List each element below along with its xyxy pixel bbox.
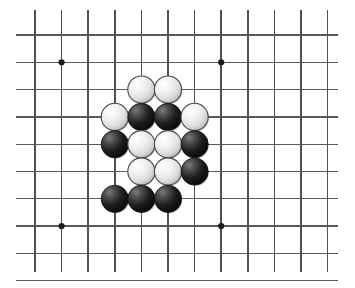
stone-body-white[interactable] — [181, 103, 208, 130]
stones-group[interactable] — [101, 76, 209, 213]
stone-white-w-d4[interactable] — [101, 103, 129, 131]
stone-body-black[interactable] — [154, 103, 181, 130]
stone-body-black[interactable] — [101, 185, 128, 212]
stone-white-w-e6[interactable] — [128, 158, 156, 186]
star-point-3 — [218, 223, 224, 229]
stone-body-black[interactable] — [128, 103, 155, 130]
stone-white-w-e3[interactable] — [128, 76, 156, 104]
star-point-0 — [59, 59, 65, 65]
stone-black-b-e7[interactable] — [128, 185, 156, 213]
stone-black-b-d5[interactable] — [101, 131, 129, 159]
stone-body-white[interactable] — [128, 131, 155, 158]
stone-black-b-e4[interactable] — [128, 103, 156, 131]
stone-body-white[interactable] — [128, 158, 155, 185]
stone-black-b-d7[interactable] — [101, 185, 129, 213]
go-board-canvas[interactable] — [0, 0, 355, 288]
stone-body-white[interactable] — [154, 158, 181, 185]
stone-body-black[interactable] — [181, 158, 208, 185]
stone-body-black[interactable] — [154, 185, 181, 212]
stone-body-black[interactable] — [181, 131, 208, 158]
stone-white-w-g4[interactable] — [181, 103, 209, 131]
stone-white-w-e5[interactable] — [128, 131, 156, 159]
star-point-1 — [218, 59, 224, 65]
stone-body-black[interactable] — [101, 131, 128, 158]
stone-black-b-f7[interactable] — [154, 185, 182, 213]
stone-body-white[interactable] — [101, 103, 128, 130]
stone-black-b-g5[interactable] — [181, 131, 209, 159]
stone-white-w-f3[interactable] — [154, 76, 182, 104]
go-board[interactable] — [0, 0, 355, 288]
stone-white-w-f6[interactable] — [154, 158, 182, 186]
stone-black-b-g6[interactable] — [181, 158, 209, 186]
stone-body-black[interactable] — [128, 185, 155, 212]
star-point-2 — [59, 223, 65, 229]
stone-body-white[interactable] — [154, 131, 181, 158]
stone-black-b-f4[interactable] — [154, 103, 182, 131]
stone-body-white[interactable] — [154, 76, 181, 103]
stone-white-w-f5[interactable] — [154, 131, 182, 159]
stone-body-white[interactable] — [128, 76, 155, 103]
